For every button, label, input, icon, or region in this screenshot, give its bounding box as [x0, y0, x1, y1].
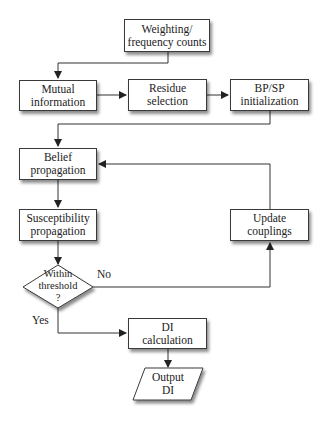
node-text: propagation: [31, 225, 86, 237]
edge-weighting-mutual: [58, 52, 168, 78]
edge-label-no: No: [97, 268, 111, 280]
node-weighting-frequency-counts: Weighting/frequency counts: [124, 19, 210, 52]
node-residue-selection: Residueselection: [128, 79, 207, 111]
node-di-calculation: DIcalculation: [128, 318, 207, 349]
node-within-threshold: Within threshold ?: [28, 268, 88, 304]
node-text: Belief: [44, 151, 72, 163]
node-output-di: Output DI: [138, 371, 198, 397]
node-text: Weighting/: [142, 23, 193, 35]
node-susceptibility-propagation: Susceptibilitypropagation: [19, 209, 97, 241]
node-text: initialization: [240, 95, 298, 107]
node-update-couplings: Updatecouplings: [230, 209, 309, 241]
node-text: information: [31, 96, 85, 108]
node-text: calculation: [142, 334, 192, 346]
edge-threshold-dicalc: [58, 307, 126, 333]
node-text: Update: [253, 212, 286, 224]
edge-threshold-update: [93, 243, 270, 287]
node-text: Residue: [149, 82, 186, 94]
node-belief-propagation: Beliefpropagation: [19, 148, 97, 180]
node-text: Susceptibility: [26, 212, 89, 224]
node-text: BP/SP: [254, 82, 284, 94]
node-text: DI: [161, 321, 173, 333]
node-text: DI: [162, 384, 174, 396]
node-text: couplings: [247, 225, 292, 237]
node-text: propagation: [31, 164, 86, 176]
node-text: Output: [152, 371, 184, 383]
edge-bpsp-belief: [58, 111, 270, 146]
node-text: selection: [147, 95, 188, 107]
node-mutual-information: Mutualinformation: [19, 80, 97, 111]
node-text: Mutual: [41, 83, 74, 95]
node-text: Within: [44, 268, 73, 279]
node-text: threshold: [38, 280, 77, 291]
node-bpsp-initialization: BP/SPinitialization: [230, 79, 309, 111]
edge-update-belief: [99, 164, 270, 209]
node-text: ?: [56, 292, 61, 303]
node-text: frequency counts: [128, 36, 207, 48]
edge-label-yes: Yes: [32, 314, 49, 326]
